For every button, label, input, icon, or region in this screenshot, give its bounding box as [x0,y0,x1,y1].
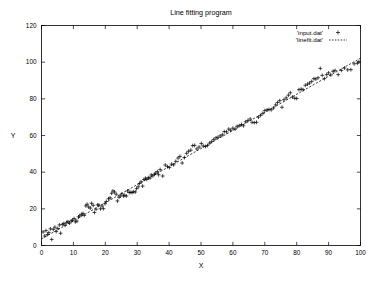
x-tick-label: 0 [40,249,44,256]
x-tick-label: 40 [166,249,174,256]
x-axis-label: X [199,262,204,269]
x-tick-label: 90 [325,249,333,256]
y-tick-label: 60 [29,132,37,139]
y-tick-label: 40 [29,168,37,175]
x-tick-label: 80 [293,249,301,256]
x-tick-label: 30 [134,249,142,256]
y-tick-label: 120 [26,22,37,29]
y-tick-label: 100 [26,58,37,65]
scatter-points [41,60,361,241]
chart-canvas: 0102030405060708090100020406080100120Lin… [0,0,381,281]
y-tick-label: 20 [29,205,37,212]
x-tick-label: 70 [261,249,269,256]
legend-label-input: 'input.dat' [297,29,323,36]
legend-label-linefit: 'linefit.dat' [296,36,323,43]
x-tick-label: 60 [229,249,237,256]
y-axis-label: Y [11,132,16,139]
x-tick-label: 20 [102,249,110,256]
x-tick-label: 10 [70,249,78,256]
plot-frame [42,26,361,246]
fit-line [42,58,361,239]
line-fitting-plot: 0102030405060708090100020406080100120Lin… [0,0,381,281]
x-tick-label: 50 [197,249,205,256]
chart-title: Line fitting program [170,8,232,17]
y-tick-label: 0 [33,242,37,249]
y-tick-label: 80 [29,95,37,102]
x-tick-label: 100 [355,249,366,256]
